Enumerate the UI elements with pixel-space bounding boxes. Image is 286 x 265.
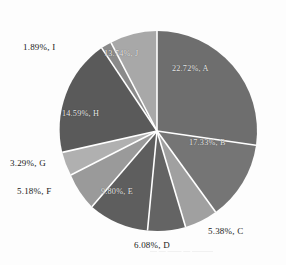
slice-label-h: 14.59%, H	[62, 109, 99, 118]
slice-label-b: 17.33%, B	[189, 138, 226, 147]
slice-label-i: 1.89%, I	[23, 42, 55, 52]
pie-slice-a[interactable]	[157, 31, 257, 145]
slice-label-f: 5.18%, F	[17, 186, 51, 196]
slice-label-c: 5.38%, C	[208, 226, 243, 236]
slice-label-e: 9.80%, E	[101, 187, 133, 196]
figure-canvas: 22.72%, A 17.33%, B 9.80%, E 14.59%, H 1…	[0, 0, 286, 265]
slice-label-j: 13.74%, J	[104, 49, 138, 58]
slice-label-a: 22.72%, A	[172, 64, 209, 73]
slice-label-g: 3.29%, G	[10, 158, 46, 168]
figure-caption-fragment: — — —— — ———	[150, 247, 280, 255]
